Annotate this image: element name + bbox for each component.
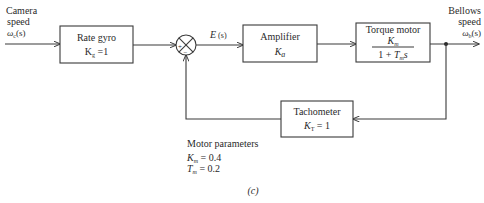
svg-text:ωc(s): ωc(s) [7, 28, 26, 39]
svg-text:KT = 1: KT = 1 [303, 120, 330, 132]
summing-junction: + − [176, 35, 196, 57]
svg-text:Tm = 0.2: Tm = 0.2 [187, 163, 220, 175]
rate-gyro-block: Rate gyro Kg =1 [60, 26, 133, 63]
input-label: Camera speed ωc(s) [6, 5, 38, 39]
svg-text:Camera: Camera [6, 5, 38, 16]
motor-parameters: Motor parameters Km = 0.4 Tm = 0.2 [186, 138, 258, 175]
svg-text:Rate gyro: Rate gyro [77, 32, 116, 43]
svg-text:Torque motor: Torque motor [366, 24, 421, 35]
error-signal-label: E(s) [209, 29, 227, 40]
svg-text:1 + Tms: 1 + Tms [378, 49, 408, 61]
svg-text:speed: speed [7, 16, 30, 27]
svg-text:Tachometer: Tachometer [293, 106, 341, 117]
amplifier-block: Amplifier Ka [243, 25, 317, 62]
figure-caption: (c) [247, 185, 259, 197]
svg-text:Bellows: Bellows [448, 5, 481, 16]
svg-text:Amplifier: Amplifier [260, 31, 300, 42]
svg-text:Kg =1: Kg =1 [85, 46, 108, 58]
tachometer-block: Tachometer KT = 1 [281, 101, 353, 137]
feedback-to-sum-arrow [186, 55, 281, 119]
svg-text:speed: speed [458, 16, 481, 27]
plus-sign: + [178, 43, 182, 51]
svg-text:Motor parameters: Motor parameters [187, 138, 258, 149]
output-label: Bellows speed ωb(s) [448, 5, 481, 39]
block-diagram: Camera speed ωc(s) Rate gyro Kg =1 + − E… [0, 0, 484, 203]
torque-motor-block: Torque motor Km 1 + Tms [356, 23, 430, 62]
svg-text:ωb(s): ωb(s) [462, 28, 481, 39]
